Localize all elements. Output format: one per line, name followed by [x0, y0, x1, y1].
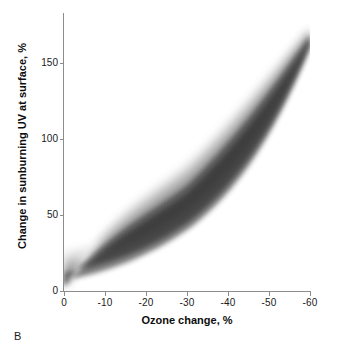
figure-panel-b: 0 -10 -20 -30 -40 -50 -60 150 100 50 0 O… [0, 0, 344, 360]
x-tick-10 [105, 292, 106, 296]
y-tick-label-group: 150 100 50 0 [30, 0, 58, 360]
x-tick-label-20: -20 [126, 297, 166, 308]
y-tick-50 [60, 215, 64, 216]
panel-label: B [14, 330, 21, 342]
x-tick-label-10: -10 [85, 297, 125, 308]
plot-area [64, 14, 310, 291]
x-tick-label-30: -30 [167, 297, 207, 308]
y-tick-100 [60, 139, 64, 140]
x-tick-0 [64, 292, 65, 296]
uv-response-band [64, 14, 310, 291]
x-tick-60 [310, 292, 311, 296]
y-tick-0 [60, 291, 64, 292]
x-tick-label-60: -60 [290, 297, 330, 308]
x-tick-label-40: -40 [208, 297, 248, 308]
y-tick-label-150: 150 [32, 57, 58, 68]
x-tick-label-50: -50 [249, 297, 289, 308]
y-tick-label-100: 100 [32, 133, 58, 144]
y-tick-label-50: 50 [32, 209, 58, 220]
x-tick-40 [228, 292, 229, 296]
y-tick-label-0: 0 [32, 285, 58, 296]
x-tick-20 [146, 292, 147, 296]
y-tick-150 [60, 63, 64, 64]
x-tick-30 [187, 292, 188, 296]
y-axis-title: Change in sunburning UV at surface, % [16, 16, 28, 276]
x-tick-50 [269, 292, 270, 296]
x-axis-title: Ozone change, % [64, 314, 310, 326]
